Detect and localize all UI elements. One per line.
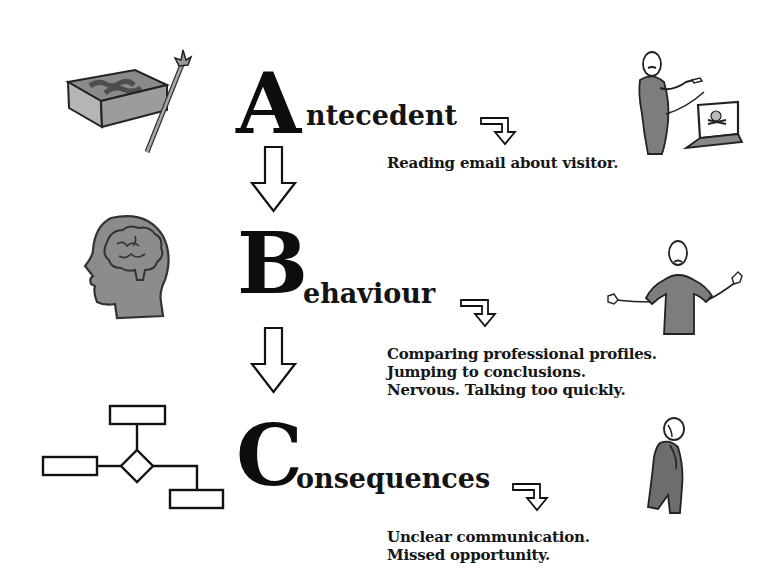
description-line: Comparing professional profiles.	[387, 345, 657, 363]
down-arrow-icon	[249, 145, 299, 215]
hook-arrow-icon	[512, 476, 552, 521]
flowchart-icon	[40, 400, 230, 520]
description-line: Reading email about visitor.	[387, 154, 618, 172]
head-brain-icon	[75, 210, 185, 325]
person-dejected-icon	[640, 415, 710, 530]
letter-b: B	[237, 222, 306, 306]
person-pointing-at-laptop-icon	[630, 50, 760, 180]
person-shrugging-icon	[598, 236, 748, 341]
description-line: Nervous. Talking too quickly.	[387, 381, 657, 399]
description-consequences: Unclear communication. Missed opportunit…	[387, 528, 590, 564]
description-line: Jumping to conclusions.	[387, 363, 657, 381]
letter-a: A	[236, 62, 299, 146]
heading-behaviour: ehaviour	[303, 280, 435, 307]
description-antecedent: Reading email about visitor.	[387, 154, 618, 172]
description-behaviour: Comparing professional profiles. Jumping…	[387, 345, 657, 399]
down-arrow-icon	[249, 326, 299, 396]
description-line: Missed opportunity.	[387, 546, 590, 564]
hook-arrow-icon	[480, 110, 520, 150]
treasure-map-icon	[55, 40, 205, 160]
letter-c: C	[236, 414, 301, 498]
description-line: Unclear communication.	[387, 528, 590, 546]
heading-consequences: onsequences	[296, 465, 490, 492]
heading-antecedent: ntecedent	[306, 102, 457, 129]
hook-arrow-icon	[460, 292, 500, 332]
